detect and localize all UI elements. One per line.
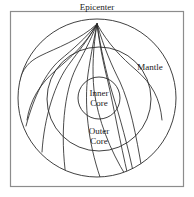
label-outer-core-line2: Core [77,136,121,146]
label-mantle-text: Mantle [137,62,163,72]
label-outer-core: Outer Core [77,126,121,146]
figure-root: Epicenter Mantle Inner Core Outer Core [0,0,194,197]
label-inner-core-line2: Core [79,98,119,108]
label-mantle: Mantle [118,62,182,72]
label-inner-core: Inner Core [79,88,119,108]
label-epicenter: Epicenter [0,2,194,12]
label-epicenter-text: Epicenter [80,2,114,12]
label-inner-core-line1: Inner [79,88,119,98]
label-outer-core-line1: Outer [77,126,121,136]
